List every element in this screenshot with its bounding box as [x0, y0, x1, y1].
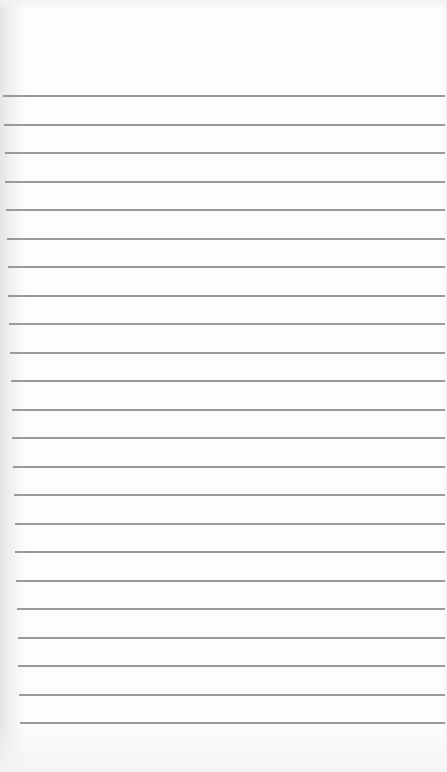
ruled-line: [3, 95, 445, 97]
top-edge-shadow: [0, 0, 447, 10]
ruled-line: [6, 209, 445, 211]
ruled-line: [14, 494, 445, 496]
ruled-line: [16, 580, 445, 582]
ruled-line: [13, 466, 445, 468]
ruled-line: [17, 608, 445, 610]
ruled-line: [12, 409, 445, 411]
ruled-line: [15, 551, 445, 553]
ruled-line: [8, 295, 445, 297]
ruled-line: [20, 722, 445, 724]
ruled-line: [5, 181, 445, 183]
ruled-line: [9, 323, 445, 325]
ruled-line: [15, 523, 445, 525]
ruled-line: [18, 665, 445, 667]
ruled-line: [12, 437, 445, 439]
ruled-line: [4, 124, 445, 126]
ruled-line: [5, 152, 445, 154]
ruled-line: [7, 238, 445, 240]
ruled-line: [10, 352, 445, 354]
ruled-line: [18, 637, 445, 639]
ruled-line: [8, 266, 445, 268]
ruled-line: [19, 694, 445, 696]
left-edge-shadow: [0, 0, 26, 772]
ruled-line: [11, 380, 445, 382]
bottom-edge-shadow: [0, 722, 447, 772]
notepad-page: [0, 0, 447, 772]
